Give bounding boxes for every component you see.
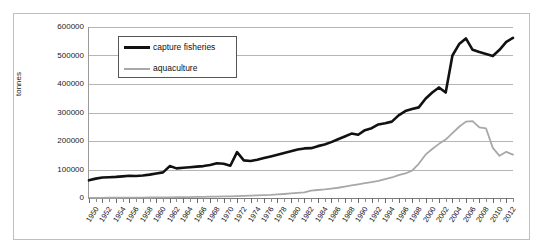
gridline	[89, 84, 513, 85]
x-axis-tick	[399, 198, 400, 203]
x-axis-tick	[203, 198, 204, 202]
gridline	[89, 27, 513, 28]
x-axis-tick	[439, 198, 440, 203]
x-axis-tick	[150, 198, 151, 202]
legend-swatch-aquaculture	[124, 68, 150, 70]
legend-item-capture-fisheries: capture fisheries	[119, 37, 236, 58]
y-axis-line	[88, 27, 89, 199]
legend-item-aquaculture: aquaculture	[119, 58, 236, 79]
x-axis-tick	[513, 198, 514, 202]
x-axis-tick	[325, 198, 326, 202]
chart-container: tonnes 010000020000030000040000050000060…	[0, 0, 545, 252]
x-axis-tick	[493, 198, 494, 203]
legend-label-aquaculture: aquaculture	[153, 64, 197, 73]
x-axis-tick	[217, 198, 218, 202]
x-axis-tick	[190, 198, 191, 202]
x-axis-tick	[331, 198, 332, 203]
x-axis-tick	[244, 198, 245, 202]
gridline	[89, 170, 513, 171]
x-axis-tick	[419, 198, 420, 202]
gridline	[89, 141, 513, 142]
x-axis-tick	[318, 198, 319, 203]
legend-label-capture-fisheries: capture fisheries	[153, 43, 215, 52]
y-axis-tick-label: 0	[24, 194, 84, 202]
x-axis-tick	[358, 198, 359, 203]
x-axis-tick	[412, 198, 413, 203]
y-axis-tick-label: 100000	[24, 166, 84, 174]
y-axis-tick-label: 300000	[24, 109, 84, 117]
x-axis-tick	[506, 198, 507, 203]
x-axis-tick	[129, 198, 130, 203]
x-axis-tick	[277, 198, 278, 203]
x-axis-tick	[264, 198, 265, 203]
x-axis-tick	[96, 198, 97, 202]
x-axis-tick	[156, 198, 157, 203]
x-axis-tick	[123, 198, 124, 202]
x-axis-tick	[284, 198, 285, 202]
x-axis-tick	[237, 198, 238, 203]
x-axis-tick	[116, 198, 117, 203]
y-axis-tick-labels: 0100000200000300000400000500000600000	[20, 0, 84, 252]
y-axis-tick-label: 600000	[24, 23, 84, 31]
x-axis-tick	[466, 198, 467, 203]
y-axis-tick-label: 500000	[24, 52, 84, 60]
x-axis-tick	[446, 198, 447, 202]
y-axis-tick-label: 400000	[24, 80, 84, 88]
x-axis-tick	[405, 198, 406, 202]
x-axis-tick	[170, 198, 171, 203]
x-axis-tick	[311, 198, 312, 202]
x-axis-tick	[385, 198, 386, 203]
gridline	[89, 113, 513, 114]
x-axis-tick	[392, 198, 393, 202]
y-axis-tick-label: 200000	[24, 137, 84, 145]
legend-swatch-capture-fisheries	[124, 46, 150, 49]
x-axis-tick	[89, 198, 90, 203]
x-axis-tick	[102, 198, 103, 203]
x-axis-tick	[479, 198, 480, 203]
chart-legend: capture fisheries aquaculture	[118, 36, 237, 78]
x-axis-tick	[345, 198, 346, 203]
x-axis-tick	[230, 198, 231, 202]
x-axis-tick	[459, 198, 460, 202]
x-axis-line	[88, 198, 514, 199]
x-axis-tick	[257, 198, 258, 202]
x-axis-tick	[224, 198, 225, 203]
x-axis-tick	[163, 198, 164, 202]
x-axis-tick	[304, 198, 305, 203]
x-axis-tick	[486, 198, 487, 202]
x-axis-tick	[136, 198, 137, 202]
x-axis-tick	[183, 198, 184, 203]
x-axis-tick	[452, 198, 453, 203]
x-axis-tick	[365, 198, 366, 202]
x-axis-tick	[426, 198, 427, 203]
x-axis-tick	[500, 198, 501, 202]
x-axis-tick	[197, 198, 198, 203]
x-axis-tick	[210, 198, 211, 203]
x-axis-tick	[109, 198, 110, 202]
x-axis-tick	[372, 198, 373, 203]
x-axis-tick	[291, 198, 292, 203]
x-axis-tick	[143, 198, 144, 203]
x-axis-tick	[298, 198, 299, 202]
x-axis-tick	[271, 198, 272, 202]
x-axis-tick	[338, 198, 339, 202]
x-axis-tick	[176, 198, 177, 202]
x-axis-tick	[473, 198, 474, 202]
x-axis-tick	[351, 198, 352, 202]
x-axis-tick	[251, 198, 252, 203]
x-axis-tick	[378, 198, 379, 202]
chart-frame	[13, 13, 530, 240]
x-axis-tick	[432, 198, 433, 202]
